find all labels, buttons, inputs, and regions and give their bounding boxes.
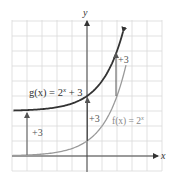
- y-axis-label: y: [82, 7, 88, 18]
- x-axis-label: x: [160, 150, 166, 161]
- exponential-shift-graph: x y +3 +3 +3 g(x) = 2x + 3 f(x) = 2x: [0, 0, 173, 180]
- g-function-label: g(x) = 2x + 3: [29, 86, 82, 99]
- shift-label-right: +3: [118, 54, 129, 65]
- shift-label-middle: +3: [89, 113, 100, 124]
- g-curve: [14, 32, 124, 111]
- plot-area: x y +3 +3 +3 g(x) = 2x + 3 f(x) = 2x: [0, 0, 173, 180]
- f-function-label: f(x) = 2x: [112, 114, 144, 127]
- shift-label-left: +3: [32, 127, 43, 138]
